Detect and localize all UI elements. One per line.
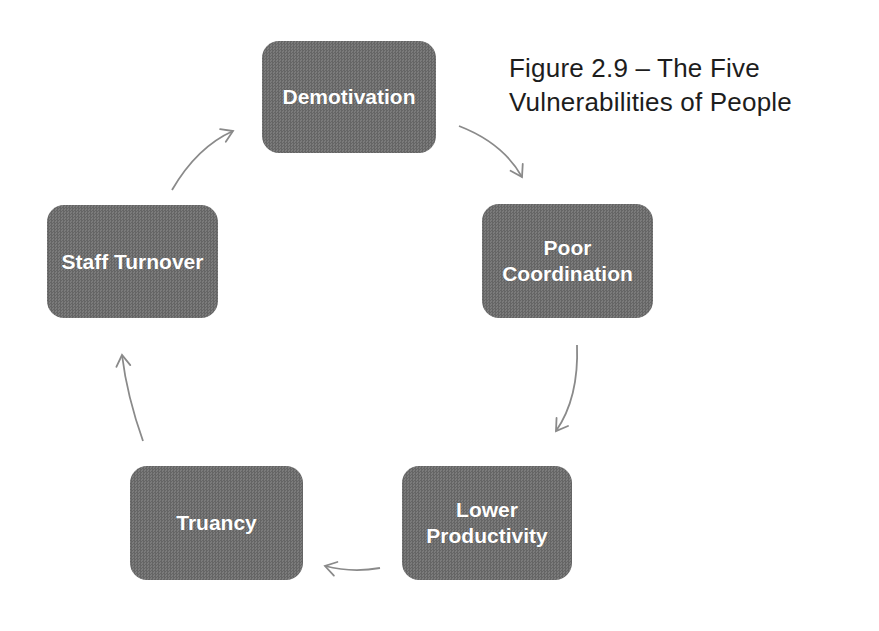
- node-label-truancy: Truancy: [176, 510, 257, 536]
- arrow-lower-productivity-to-truancy: [325, 566, 380, 570]
- figure-title-line2: Vulnerabilities of People: [509, 86, 869, 120]
- node-staff-turnover: Staff Turnover: [47, 205, 218, 318]
- arrow-poor-coordination-to-lower-productivity: [556, 345, 577, 431]
- node-label-poor-coordination: Poor Coordination: [490, 235, 645, 286]
- node-demotivation: Demotivation: [262, 41, 436, 153]
- arrow-truancy-to-staff-turnover: [122, 355, 143, 441]
- node-label-staff-turnover: Staff Turnover: [62, 249, 204, 275]
- node-poor-coordination: Poor Coordination: [482, 204, 653, 318]
- node-lower-productivity: Lower Productivity: [402, 466, 572, 580]
- arrow-demotivation-to-poor-coordination: [459, 126, 522, 177]
- node-truancy: Truancy: [130, 466, 303, 580]
- figure-title: Figure 2.9 – The Five Vulnerabilities of…: [509, 52, 869, 120]
- node-label-lower-productivity: Lower Productivity: [410, 497, 564, 548]
- figure-title-line1: Figure 2.9 – The Five: [509, 52, 869, 86]
- arrow-staff-turnover-to-demotivation: [172, 131, 233, 190]
- node-label-demotivation: Demotivation: [282, 84, 415, 110]
- figure-canvas: Demotivation Poor Coordination Lower Pro…: [0, 0, 879, 631]
